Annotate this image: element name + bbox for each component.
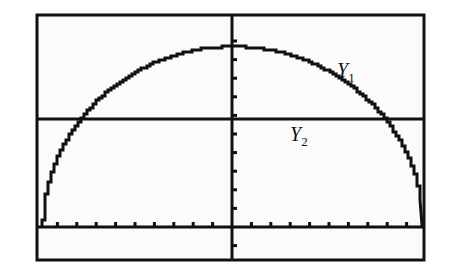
x-tick [347,222,350,226]
x-tick [75,222,78,226]
x-tick [328,222,331,226]
x-tick [153,222,156,226]
y-tick [233,188,237,191]
x-tick [56,222,59,226]
y-tick [233,77,237,80]
x-tick [172,222,175,226]
y-tick [233,244,237,247]
x-tick [386,222,389,226]
x-tick [211,222,214,226]
x-tick [308,222,311,226]
graph-canvas: Y1 Y2 [0,0,453,275]
y-tick [233,170,237,173]
y-tick [233,114,237,117]
x-tick [192,222,195,226]
x-tick [250,222,253,226]
x-tick [405,222,408,226]
y-tick [233,95,237,98]
y-tick [233,40,237,43]
x-tick [134,222,137,226]
x-tick [95,222,98,226]
x-tick [289,222,292,226]
y-tick [233,207,237,210]
y-tick [233,151,237,154]
x-tick [366,222,369,226]
y-tick [233,133,237,136]
x-tick [114,222,117,226]
y-tick [233,58,237,61]
x-tick [269,222,272,226]
graph-screen: Y1 Y2 [0,0,453,275]
